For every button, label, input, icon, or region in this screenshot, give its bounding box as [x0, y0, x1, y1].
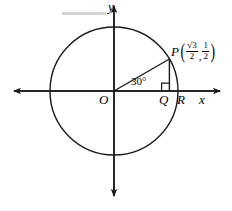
x-coordinate-denominator: 2 [189, 52, 196, 61]
point-p-name: P [171, 45, 179, 58]
diagram-canvas [0, 0, 232, 211]
coordinate-comma: , [199, 51, 202, 62]
y-coordinate-numerator: 1 [202, 41, 209, 51]
unit-circle-diagram: y x O Q R 30° P(√32,12) [0, 0, 232, 211]
close-paren: ) [210, 40, 215, 62]
point-r-label: R [177, 93, 185, 106]
point-p-label: P(√32,12) [171, 40, 216, 62]
origin-label: O [99, 93, 108, 106]
point-q-label: Q [159, 93, 168, 106]
y-coordinate-fraction: 12 [202, 41, 209, 61]
angle-label: 30° [131, 76, 146, 87]
y-coordinate-denominator: 2 [202, 52, 209, 61]
x-coordinate-fraction: √32 [186, 41, 197, 61]
x-axis-label: x [199, 93, 205, 106]
right-angle-marker [162, 83, 170, 91]
x-coordinate-numerator: √3 [186, 41, 197, 51]
scan-artifact [62, 12, 106, 15]
y-axis-label: y [108, 0, 114, 13]
open-paren: ( [180, 40, 185, 62]
